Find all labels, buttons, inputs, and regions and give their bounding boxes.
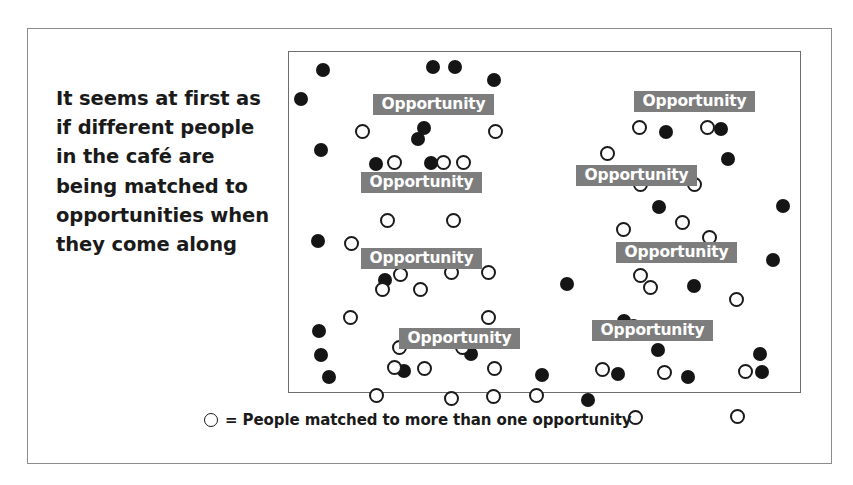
person-dot-hollow bbox=[486, 389, 501, 404]
person-dot-filled bbox=[426, 60, 440, 74]
legend-label: = People matched to more than one opport… bbox=[225, 411, 631, 429]
person-dot-filled bbox=[766, 253, 780, 267]
person-dot-hollow bbox=[444, 391, 459, 406]
person-dot-hollow bbox=[481, 265, 496, 280]
hollow-circle-icon bbox=[204, 413, 218, 427]
person-dot-hollow bbox=[488, 124, 503, 139]
opportunity-label: Opportunity bbox=[592, 320, 713, 341]
person-dot-filled bbox=[535, 368, 549, 382]
opportunity-label: Opportunity bbox=[634, 91, 755, 112]
person-dot-hollow bbox=[632, 120, 647, 135]
person-dot-hollow bbox=[738, 364, 753, 379]
person-dot-hollow bbox=[675, 215, 690, 230]
person-dot-hollow bbox=[600, 146, 615, 161]
person-dot-hollow bbox=[369, 388, 384, 403]
person-dot-hollow bbox=[595, 362, 610, 377]
figure-container: It seems at first as if different people… bbox=[0, 0, 853, 485]
person-dot-filled bbox=[312, 324, 326, 338]
person-dot-hollow bbox=[657, 365, 672, 380]
person-dot-filled bbox=[369, 157, 383, 171]
person-dot-hollow bbox=[481, 310, 496, 325]
person-dot-filled bbox=[652, 200, 666, 214]
person-dot-filled bbox=[611, 367, 625, 381]
opportunity-label: Opportunity bbox=[616, 242, 737, 263]
person-dot-hollow bbox=[355, 124, 370, 139]
person-dot-hollow bbox=[446, 213, 461, 228]
person-dot-hollow bbox=[616, 222, 631, 237]
person-dot-filled bbox=[681, 370, 695, 384]
opportunity-label: Opportunity bbox=[361, 248, 482, 269]
person-dot-hollow bbox=[487, 361, 502, 376]
person-dot-filled bbox=[755, 365, 769, 379]
person-dot-hollow bbox=[343, 310, 358, 325]
person-dot-filled bbox=[314, 348, 328, 362]
person-dot-hollow bbox=[344, 236, 359, 251]
person-dot-hollow bbox=[393, 267, 408, 282]
person-dot-filled bbox=[417, 121, 431, 135]
person-dot-hollow bbox=[413, 282, 428, 297]
person-dot-filled bbox=[714, 122, 728, 136]
person-dot-hollow bbox=[730, 409, 745, 424]
legend: = People matched to more than one opport… bbox=[204, 411, 631, 429]
person-dot-hollow bbox=[436, 155, 451, 170]
opportunity-label: Opportunity bbox=[373, 94, 494, 115]
person-dot-filled bbox=[776, 199, 790, 213]
person-dot-hollow bbox=[387, 155, 402, 170]
person-dot-hollow bbox=[643, 280, 658, 295]
person-dot-hollow bbox=[375, 282, 390, 297]
person-dot-filled bbox=[581, 393, 595, 407]
figure-caption-text: It seems at first as if different people… bbox=[56, 84, 271, 259]
person-dot-hollow bbox=[456, 155, 471, 170]
person-dot-hollow bbox=[417, 361, 432, 376]
person-dot-filled bbox=[314, 143, 328, 157]
person-dot-hollow bbox=[529, 388, 544, 403]
person-dot-filled bbox=[659, 125, 673, 139]
person-dot-filled bbox=[651, 343, 665, 357]
scatter-diagram-box: OpportunityOpportunityOpportunityOpportu… bbox=[288, 51, 801, 393]
person-dot-filled bbox=[721, 152, 735, 166]
person-dot-filled bbox=[294, 92, 308, 106]
person-dot-filled bbox=[316, 63, 330, 77]
person-dot-filled bbox=[448, 60, 462, 74]
person-dot-hollow bbox=[729, 292, 744, 307]
person-dot-hollow bbox=[387, 360, 402, 375]
person-dot-hollow bbox=[380, 213, 395, 228]
opportunity-label: Opportunity bbox=[576, 165, 697, 186]
person-dot-filled bbox=[560, 277, 574, 291]
person-dot-filled bbox=[753, 347, 767, 361]
person-dot-hollow bbox=[700, 120, 715, 135]
person-dot-filled bbox=[687, 279, 701, 293]
person-dot-filled bbox=[322, 370, 336, 384]
person-dot-filled bbox=[487, 73, 501, 87]
opportunity-label: Opportunity bbox=[399, 328, 520, 349]
person-dot-filled bbox=[311, 234, 325, 248]
opportunity-label: Opportunity bbox=[361, 172, 482, 193]
